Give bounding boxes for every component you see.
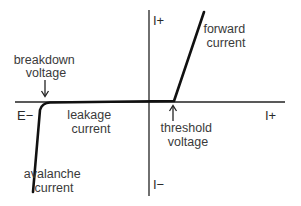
y-negative-label: I− xyxy=(153,177,164,192)
diode-iv-diagram: E− I+ I+ I− breakdown voltage leakage cu… xyxy=(0,0,301,206)
breakdown-voltage-label: breakdown voltage xyxy=(14,53,79,80)
x-positive-label: I+ xyxy=(265,108,276,123)
threshold-arrow-icon xyxy=(170,106,177,122)
threshold-voltage-label: threshold voltage xyxy=(161,121,216,149)
x-negative-label: E− xyxy=(17,108,33,123)
y-positive-label: I+ xyxy=(153,13,164,28)
breakdown-arrow-icon xyxy=(42,80,49,97)
leakage-current-label: leakage current xyxy=(67,108,114,136)
forward-current-label: forward current xyxy=(203,22,248,50)
